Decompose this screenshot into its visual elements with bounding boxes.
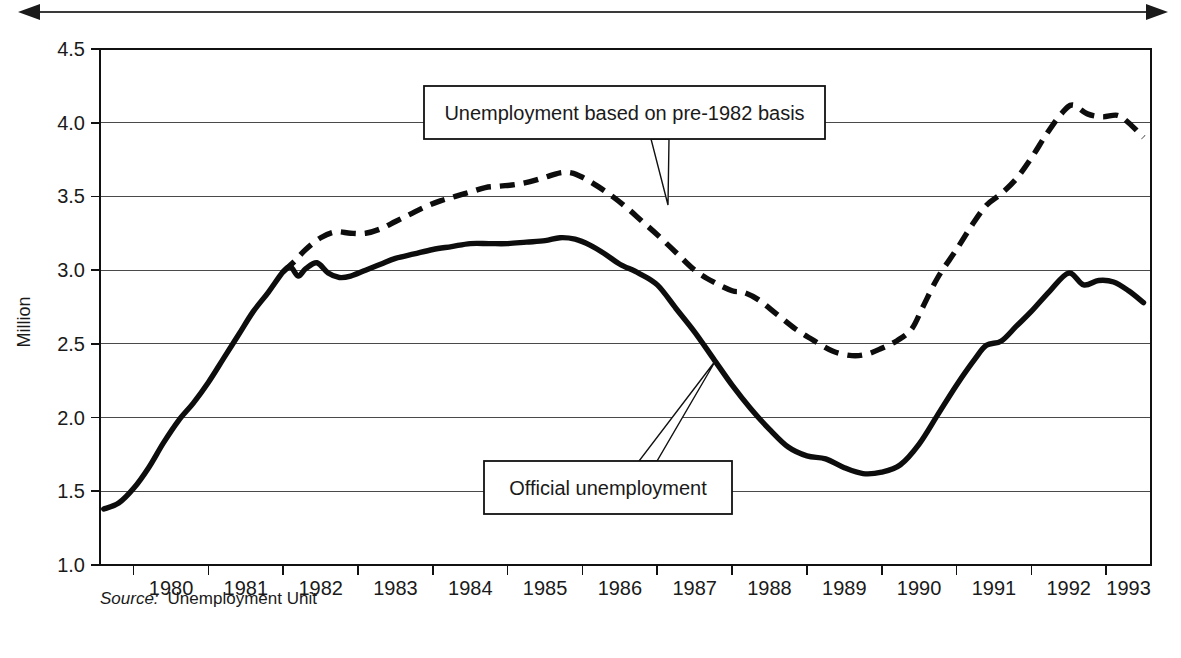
y-axis-title: Million xyxy=(14,296,34,347)
x-tick-label: 1983 xyxy=(373,577,418,599)
callout-leader-pointer xyxy=(639,360,716,461)
x-tick-label: 1989 xyxy=(822,577,867,599)
x-tick-label: 1986 xyxy=(598,577,643,599)
source-prefix: Source: xyxy=(100,589,159,608)
y-tick-label: 1.0 xyxy=(57,554,85,576)
series-line-pre-1982-basis xyxy=(283,105,1143,356)
unemployment-chart-figure: 1.01.52.02.53.03.54.04.5 198019811982198… xyxy=(0,0,1181,658)
x-tick-label: 1984 xyxy=(448,577,493,599)
callout-label: Unemployment based on pre-1982 basis xyxy=(444,102,804,124)
svg-text:Source:Unemployment Unit: Source:Unemployment Unit xyxy=(100,589,317,608)
source-text: Unemployment Unit xyxy=(168,589,318,608)
source-note: Source:Unemployment Unit xyxy=(100,589,317,608)
y-tick-label: 4.0 xyxy=(57,112,85,134)
callout-label: Official unemployment xyxy=(509,477,707,499)
callout-annotations-layer: Unemployment based on pre-1982 basisOffi… xyxy=(424,86,825,514)
data-series-layer xyxy=(104,105,1144,509)
callout-leader-pointer xyxy=(651,139,669,205)
x-tick-label: 1990 xyxy=(897,577,942,599)
y-tick-label: 1.5 xyxy=(57,480,85,502)
chart-canvas: 1.01.52.02.53.03.54.04.5 198019811982198… xyxy=(0,0,1181,658)
span-arrow-head-right-icon xyxy=(1146,4,1168,20)
span-arrow-group xyxy=(18,4,1168,20)
y-tick-label: 2.0 xyxy=(57,407,85,429)
y-axis-tickmarks xyxy=(91,49,100,565)
x-tick-label: 1991 xyxy=(972,577,1017,599)
span-arrow-head-left-icon xyxy=(18,4,40,20)
y-tick-label: 3.5 xyxy=(57,185,85,207)
y-tick-label: 3.0 xyxy=(57,259,85,281)
x-tick-label: 1985 xyxy=(523,577,568,599)
x-tick-label: 1988 xyxy=(747,577,792,599)
callout-official-unemployment: Official unemployment xyxy=(484,360,732,514)
x-tick-label: 1987 xyxy=(672,577,717,599)
x-tick-label: 1993 xyxy=(1106,577,1151,599)
x-tick-label: 1992 xyxy=(1046,577,1091,599)
y-tick-label: 2.5 xyxy=(57,333,85,355)
y-axis-tick-labels: 1.01.52.02.53.03.54.04.5 xyxy=(57,38,85,576)
x-axis-tickmarks xyxy=(134,565,1106,575)
y-tick-label: 4.5 xyxy=(57,38,85,60)
